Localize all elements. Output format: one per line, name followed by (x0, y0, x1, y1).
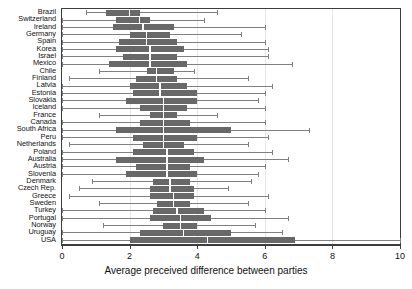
x-tick (130, 245, 131, 249)
box-iqr (140, 120, 191, 126)
whisker-cap-low (62, 47, 63, 52)
whisker-cap-high (309, 128, 310, 133)
x-tick-label-4: 4 (182, 251, 212, 261)
whisker-cap-high (258, 98, 259, 103)
box-iqr (140, 230, 231, 236)
whisker-cap-high (217, 10, 218, 15)
box-iqr (133, 135, 197, 141)
box-iqr (150, 186, 194, 192)
whisker-cap-low (62, 157, 63, 162)
whisker-cap-low (99, 69, 100, 74)
whisker-cap-low (62, 91, 63, 96)
whisker-cap-high (248, 76, 249, 81)
whisker-cap-high (194, 69, 195, 74)
whisker-cap-low (103, 223, 104, 228)
box-iqr (119, 39, 176, 45)
box-iqr (130, 237, 296, 243)
whisker-cap-high (272, 84, 273, 89)
box-iqr (153, 208, 204, 214)
whisker-cap-low (62, 54, 63, 59)
whisker-cap-low (62, 62, 63, 67)
whisker-cap-high (248, 142, 249, 147)
box-iqr (116, 17, 150, 23)
plot-area (62, 9, 400, 244)
whisker-cap-low (62, 135, 63, 140)
whisker-cap-high (272, 150, 273, 155)
whisker-cap-high (265, 106, 266, 111)
whisker-cap-low (62, 84, 63, 89)
whisker-cap-low (62, 230, 63, 235)
x-tick-label-10: 10 (385, 251, 412, 261)
whisker-cap-high (265, 208, 266, 213)
box-iqr (116, 127, 231, 133)
box-iqr (153, 179, 190, 185)
whisker-cap-low (69, 194, 70, 199)
whisker-cap-low (62, 120, 63, 125)
y-axis-country-labels: BrazilSwitzerlandIrelandGermanySpainKore… (0, 8, 59, 245)
whisker-cap-high (265, 120, 266, 125)
x-tick (265, 245, 266, 249)
whisker-cap-high (217, 113, 218, 118)
whisker-cap-low (99, 201, 100, 206)
whisker-cap-low (62, 128, 63, 133)
whisker-cap-high (258, 172, 259, 177)
whisker-cap-high (268, 54, 269, 59)
box-iqr (147, 68, 174, 74)
plot-frame (61, 8, 401, 245)
whisker-cap-high (288, 157, 289, 162)
box-iqr (106, 10, 140, 16)
x-tick (332, 245, 333, 249)
box-iqr (116, 157, 204, 163)
x-tick-label-0: 0 (47, 251, 77, 261)
whisker-cap-low (99, 113, 100, 118)
whisker-cap-low (62, 32, 63, 37)
whisker-cap-high (288, 216, 289, 221)
boxplot-figure: BrazilSwitzerlandIrelandGermanySpainKore… (0, 0, 412, 289)
whisker-cap-low (92, 179, 93, 184)
x-tick (62, 245, 63, 249)
whisker-cap-high (228, 186, 229, 191)
box-iqr (126, 171, 197, 177)
whisker-cap-high (204, 18, 205, 23)
whisker-cap-low (69, 76, 70, 81)
y-axis-label-usa: USA (41, 236, 56, 243)
whisker-cap-low (62, 172, 63, 177)
whisker-cap-high (251, 179, 252, 184)
whisker-cap-low (62, 208, 63, 213)
whisker-cap-high (282, 230, 283, 235)
x-tick (197, 245, 198, 249)
whisker-cap-low (62, 164, 63, 169)
box-iqr (136, 164, 190, 170)
whisker-cap-high (268, 135, 269, 140)
whisker-cap-low (62, 238, 63, 243)
whisker-cap-high (265, 164, 266, 169)
box-iqr (133, 149, 194, 155)
whisker-cap-high (292, 62, 293, 67)
x-tick-label-2: 2 (115, 251, 145, 261)
whisker-cap-low (62, 150, 63, 155)
whisker-cap-high (265, 91, 266, 96)
x-tick (400, 245, 401, 249)
x-tick-label-8: 8 (317, 251, 347, 261)
whisker-cap-high (268, 194, 269, 199)
whisker-cap-low (69, 142, 70, 147)
whisker-cap-high (248, 201, 249, 206)
box-iqr (133, 90, 197, 96)
whisker-cap-high (265, 25, 266, 30)
x-axis-line (61, 245, 401, 246)
x-tick-label-6: 6 (250, 251, 280, 261)
whisker-cap-low (79, 186, 80, 191)
box-iqr (130, 32, 171, 38)
whisker-cap-low (62, 18, 63, 23)
whisker-cap-high (255, 223, 256, 228)
whisker-cap-high (241, 32, 242, 37)
whisker-cap-low (62, 25, 63, 30)
whisker-cap-low (62, 216, 63, 221)
whisker-cap-high (268, 47, 269, 52)
whisker-cap-low (62, 98, 63, 103)
boxplot-row (62, 236, 400, 244)
whisker-cap-high (265, 40, 266, 45)
whisker-cap-low (62, 40, 63, 45)
median-marker (207, 236, 209, 244)
whisker-cap-high (400, 238, 401, 243)
